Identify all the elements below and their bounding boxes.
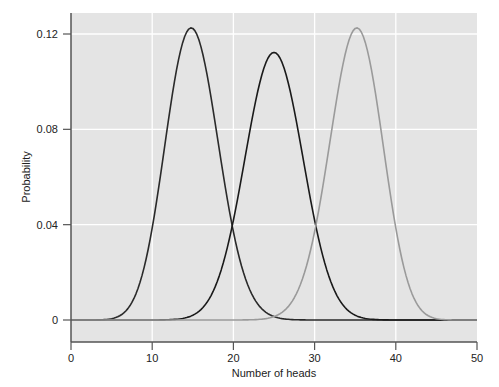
x-axis-ticks: 01020304050 [68, 342, 483, 364]
x-tick-label: 30 [308, 352, 320, 364]
y-axis-title: Probability [20, 151, 32, 203]
y-tick-label: 0.04 [37, 219, 58, 231]
x-tick-label: 50 [471, 352, 483, 364]
chart: 01020304050 00.040.080.12 Number of head… [0, 0, 499, 387]
x-tick-label: 10 [146, 352, 158, 364]
y-tick-label: 0 [52, 314, 58, 326]
y-axis-ticks: 00.040.080.12 [37, 28, 71, 326]
x-tick-label: 0 [68, 352, 74, 364]
x-tick-label: 20 [227, 352, 239, 364]
x-tick-label: 40 [390, 352, 402, 364]
x-axis-title: Number of heads [232, 367, 317, 379]
y-tick-label: 0.08 [37, 123, 58, 135]
y-tick-label: 0.12 [37, 28, 58, 40]
plot-background [71, 13, 477, 342]
